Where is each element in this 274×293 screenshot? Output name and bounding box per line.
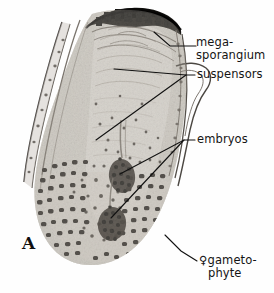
- label-gametophyte: ♀gameto- phyte: [199, 254, 257, 279]
- label-megasporangium-line1: mega-: [196, 35, 233, 49]
- label-gametophyte-line2: phyte: [208, 267, 257, 280]
- panel-letter: A: [22, 233, 35, 253]
- label-gametophyte-line1: gameto-: [208, 253, 257, 267]
- label-embryos-line1: embryos: [197, 132, 248, 146]
- label-megasporangium: mega- sporangium: [196, 36, 265, 61]
- label-suspensors-line1: suspensors: [197, 67, 263, 81]
- label-megasporangium-line2: sporangium: [196, 49, 265, 62]
- label-embryos: embryos: [197, 133, 248, 146]
- micrograph-figure: mega- sporangium suspensors embryos ♀gam…: [0, 0, 274, 293]
- venus-symbol-icon: ♀: [199, 253, 208, 267]
- label-suspensors: suspensors: [197, 68, 263, 81]
